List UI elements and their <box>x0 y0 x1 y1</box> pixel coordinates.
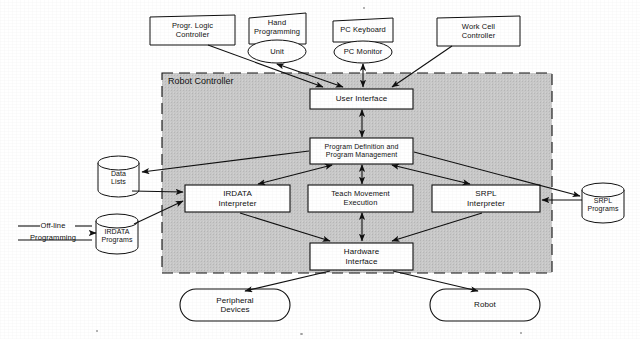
program-definition-management-shape <box>310 138 413 164</box>
plc-shape <box>150 15 235 45</box>
hand-programming-shape <box>249 13 306 44</box>
pc-monitor-shape <box>334 41 392 63</box>
diagram-vector-layer <box>0 0 640 339</box>
pc-keyboard-shape <box>333 18 393 42</box>
off-line-programming-rules <box>18 226 92 240</box>
irdata-interpreter-shape <box>185 185 290 212</box>
robot-shape <box>430 289 540 321</box>
srpl-interpreter-shape <box>432 185 540 212</box>
terminator-shapes <box>180 289 540 321</box>
external-node-shapes <box>150 13 520 46</box>
edge-hardware-interface-to-peripheral-devices <box>245 271 330 291</box>
work-cell-controller-shape <box>437 16 520 46</box>
hardware-interface-shape <box>310 243 413 270</box>
hand-programming-unit-shape <box>248 40 306 63</box>
srpl-programs-shape <box>582 183 624 223</box>
robot-controller-label: Robot Controller <box>168 76 234 86</box>
irdata-programs-shape <box>96 214 138 254</box>
external-ellipse-shapes <box>248 40 392 63</box>
user-interface-shape <box>310 89 413 109</box>
teach-movement-execution-shape <box>308 185 413 212</box>
diagram-canvas: Robot Controller Progr. Logic Controller… <box>0 0 640 339</box>
peripheral-devices-shape <box>180 289 290 321</box>
edge-hardware-interface-to-robot <box>393 271 478 291</box>
